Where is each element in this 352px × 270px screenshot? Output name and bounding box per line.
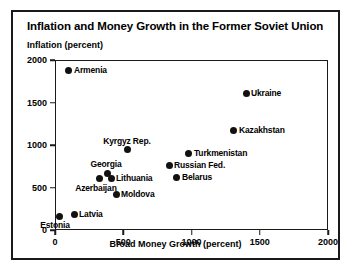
data-point [108, 175, 115, 182]
y-tick-mark [50, 102, 55, 104]
y-tick-label: 500 [13, 183, 47, 193]
data-point [230, 127, 237, 134]
y-tick-label: 1500 [13, 98, 47, 108]
data-point [96, 175, 103, 182]
data-point-label: Georgia [91, 160, 122, 169]
x-tick-label: 500 [116, 237, 131, 247]
data-point-label: Latvia [79, 210, 103, 219]
y-tick-mark [50, 187, 55, 189]
y-tick-mark [50, 144, 55, 146]
y-tick-mark [50, 59, 55, 61]
data-point [185, 150, 192, 157]
data-point-label: Turkmenistan [194, 149, 247, 158]
page-title: Inflation and Money Growth in the Former… [27, 20, 323, 32]
y-tick-label: 2000 [13, 55, 47, 65]
x-tick-label: 2000 [318, 237, 338, 247]
data-point-label: Kazakhstan [239, 126, 285, 135]
x-tick-label: 0 [52, 237, 57, 247]
x-tick-mark [259, 230, 261, 235]
plot-area: ArmeniaUkraineKazakhstanKyrgyz Rep.Turkm… [55, 60, 328, 230]
x-tick-label: 1500 [250, 237, 270, 247]
data-point-label: Armenia [74, 66, 107, 75]
data-point [113, 191, 120, 198]
x-tick-mark [54, 230, 56, 235]
x-tick-label: 1000 [181, 237, 201, 247]
data-point-label: Azerbaijan [75, 184, 117, 193]
data-point-label: Ukraine [251, 89, 281, 98]
y-axis-label: Inflation (percent) [27, 40, 103, 50]
x-tick-mark [123, 230, 125, 235]
x-tick-mark [327, 230, 329, 235]
data-point [65, 67, 72, 74]
data-point-label: Moldova [121, 190, 154, 199]
data-point [166, 162, 173, 169]
x-axis-label: Broad Money Growth (percent) [13, 239, 338, 249]
data-point-label: Lithuania [116, 174, 152, 183]
data-point [243, 90, 250, 97]
data-point [124, 146, 131, 153]
data-point [56, 213, 63, 220]
y-tick-label: 1000 [13, 140, 47, 150]
data-point-label: Kyrgyz Rep. [103, 137, 150, 146]
y-tick-label: 0 [13, 225, 47, 235]
x-tick-mark [191, 230, 193, 235]
data-point-label: Belarus [182, 173, 212, 182]
data-point-label: Russian Fed. [174, 161, 225, 170]
data-point [71, 211, 78, 218]
data-point [173, 174, 180, 181]
figure-frame: Inflation and Money Growth in the Former… [11, 10, 340, 260]
